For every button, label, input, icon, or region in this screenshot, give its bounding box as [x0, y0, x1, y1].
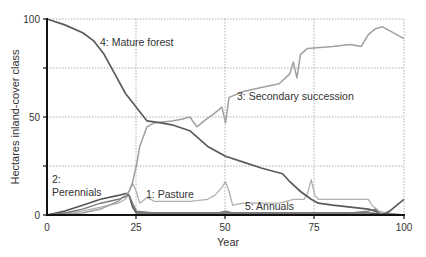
label-perennials-name: Perennials [52, 186, 102, 198]
x-tick-label-0: 0 [44, 222, 50, 233]
label-perennials-number: 2: [52, 173, 61, 185]
x-tick-label-50: 50 [219, 222, 231, 233]
x-tick-label-75: 75 [308, 222, 320, 233]
series-line-annuals [47, 195, 404, 215]
label-annuals: 5: Annuals [245, 200, 294, 212]
x-tick-label-25: 25 [130, 222, 142, 233]
x-axis-title: Year [217, 236, 240, 248]
label-pasture: 1: Pasture [146, 188, 194, 200]
y-tick-label-100: 100 [23, 14, 40, 25]
y-tick-label-50: 50 [29, 112, 41, 123]
y-tick-label-0: 0 [34, 210, 40, 221]
x-tick-label-100: 100 [396, 222, 413, 233]
label-secondary-succession: 3: Secondary succession [237, 90, 354, 102]
label-mature-forest: 4: Mature forest [100, 36, 174, 48]
y-axis-title: Hectares inland-cover class [9, 49, 21, 185]
line-chart: 100 50 0 0 25 50 75 100 Year Hectares in… [0, 0, 426, 257]
